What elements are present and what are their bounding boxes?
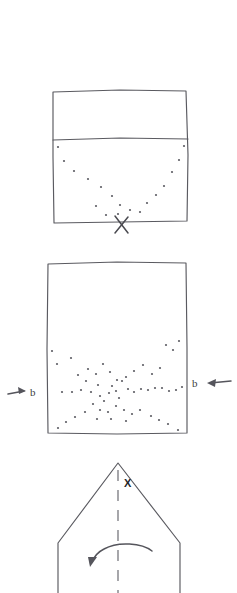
label-b-left: b [30,386,36,398]
scatter-dot [63,160,65,162]
panel-top-divider-line [53,138,188,140]
scatter-dot [61,391,63,393]
scatter-dot [99,395,101,397]
scatter-dot [118,397,120,399]
scatter-dot [87,178,89,180]
scatter-dot [158,419,160,421]
scatter-dot [103,400,105,402]
scatter-dot [74,416,76,418]
scatter-dot [85,380,87,382]
scatter-dot [51,350,53,352]
scatter-dot [107,411,109,413]
counterclockwise-rotation-arrow [88,544,152,567]
scatter-dot [95,373,97,375]
scatter-dot [165,344,167,346]
scatter-dot [57,427,59,429]
scatter-dot [125,376,127,378]
panel-top-dot-cluster [57,145,185,216]
scatter-dot [161,387,163,389]
scatter-dot [115,390,117,392]
panel-middle: b b [8,262,231,434]
scatter-dot [117,213,119,215]
scatter-dot [95,205,97,207]
scatter-dot [150,415,152,417]
figure-canvas: b b X [0,0,237,593]
scatter-dot [119,204,121,206]
panel-bottom: X [58,463,180,593]
scatter-dot [99,409,101,411]
rotation-arrow-head [88,557,97,567]
scatter-dot [163,185,165,187]
house-outline [58,463,180,593]
scatter-dot [123,409,125,411]
scatter-dot [73,170,75,172]
scatter-dot [129,209,131,211]
scatter-dot [80,389,82,391]
scatter-dot [110,418,112,420]
scatter-dot [154,387,156,389]
panel-top-rectangle [53,90,188,223]
annotation-b-right: b [192,377,231,389]
scatter-dot [92,403,94,405]
scatter-dot [183,145,185,147]
scatter-dot [56,363,58,365]
scatter-dot [155,194,157,196]
scatter-dot [151,373,153,375]
scatter-dot [146,202,148,204]
scatter-dot [139,211,141,213]
scatter-dot [90,391,92,393]
panel-middle-rectangle [47,262,187,434]
scatter-dot [133,391,135,393]
scatter-dot [109,371,111,373]
scatter-dot [57,146,59,148]
scatter-dot [175,389,177,391]
scatter-dot [77,374,79,376]
scatter-dot [167,423,169,425]
arrow-right-head [18,387,26,394]
arrow-left-head [207,379,216,387]
scatter-dot [116,379,118,381]
scatter-dot [87,368,89,370]
scatter-dot [147,389,149,391]
scatter-dot [168,390,170,392]
scatter-dot [159,367,161,369]
scatter-dot [111,195,113,197]
scatter-dot [177,429,179,431]
rotation-arrow-arc [92,544,152,562]
apex-label-x: X [124,477,132,489]
scatter-dot [133,370,135,372]
scatter-dot [115,405,117,407]
scatter-dot [100,186,102,188]
scatter-dot [105,214,107,216]
scatter-dot [172,349,174,351]
panel-top-x-marker [115,216,128,233]
scatter-dot [178,340,180,342]
scatter-dot [97,384,99,386]
scatter-dot [121,380,123,382]
annotation-b-left: b [8,386,36,398]
scatter-dot [178,159,180,161]
scatter-dot [131,413,133,415]
scatter-dot [111,385,113,387]
panel-top [53,90,188,233]
scatter-dot [84,411,86,413]
figure-root: b b X [0,0,237,593]
scatter-dot [181,386,183,388]
scatter-dot [108,392,110,394]
scatter-dot [139,409,141,411]
scatter-dot [96,418,98,420]
scatter-dot [70,357,72,359]
scatter-dot [171,171,173,173]
scatter-dot [127,388,129,390]
scatter-dot [125,420,127,422]
panel-middle-dot-cluster [51,340,183,431]
scatter-dot [140,388,142,390]
label-b-right: b [192,377,198,389]
scatter-dot [71,391,73,393]
scatter-dot [142,364,144,366]
scatter-dot [102,363,104,365]
scatter-dot [65,421,67,423]
